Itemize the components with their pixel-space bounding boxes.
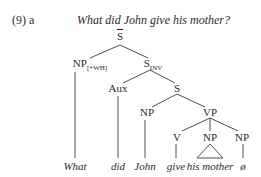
tree-branches [0, 0, 261, 177]
leaf-give: give [167, 160, 185, 172]
node-np-object: NP [203, 131, 217, 143]
node-np-subject: NP [140, 106, 154, 118]
node-vp: VP [203, 106, 217, 118]
leaf-john: John [134, 160, 155, 172]
leaf-what: What [63, 160, 86, 172]
node-np-wh: NP[+WH] [73, 57, 107, 74]
node-aux: Aux [109, 82, 128, 94]
leaf-did: did [111, 160, 125, 172]
node-s: S [174, 82, 180, 94]
node-s-bar: S [117, 30, 123, 42]
leaf-empty-gap: ø [240, 160, 246, 172]
node-s-inv: SINV [144, 57, 163, 74]
leaf-his-mother: his mother [187, 160, 234, 172]
node-v: V [173, 131, 181, 143]
node-np-gap: NP [235, 131, 249, 143]
